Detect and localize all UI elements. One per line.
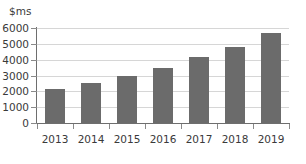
bar bbox=[153, 68, 173, 123]
bar bbox=[225, 47, 245, 123]
gridline bbox=[37, 28, 289, 29]
y-axis-tick-label: 4000 bbox=[2, 54, 29, 66]
x-axis-tick-mark bbox=[145, 124, 146, 129]
y-axis-tick-mark bbox=[31, 28, 37, 29]
x-axis-tick-label: 2014 bbox=[78, 133, 105, 145]
y-axis-tick-label: 6000 bbox=[2, 22, 29, 34]
x-axis-tick-label: 2018 bbox=[222, 133, 249, 145]
y-axis-tick-mark bbox=[31, 76, 37, 77]
y-axis-tick-label: 1000 bbox=[2, 101, 29, 113]
x-axis-tick-mark bbox=[217, 124, 218, 129]
x-axis-tick-mark bbox=[181, 124, 182, 129]
x-axis-line bbox=[31, 123, 290, 124]
y-axis-tick-mark bbox=[31, 44, 37, 45]
bar bbox=[261, 33, 281, 123]
x-axis-tick-mark bbox=[37, 124, 38, 129]
bar bbox=[117, 76, 137, 124]
plot-area bbox=[37, 28, 289, 123]
bar bbox=[45, 89, 65, 123]
x-axis-tick-label: 2015 bbox=[114, 133, 141, 145]
y-axis-tick-mark bbox=[31, 91, 37, 92]
x-axis-tick-mark bbox=[253, 124, 254, 129]
bar bbox=[81, 83, 101, 123]
bar bbox=[189, 57, 209, 123]
x-axis-tick-mark bbox=[73, 124, 74, 129]
x-axis-tick-mark bbox=[109, 124, 110, 129]
y-axis-tick-label: 3000 bbox=[2, 70, 29, 82]
x-axis-tick-label: 2016 bbox=[150, 133, 177, 145]
y-axis-unit-label: $ms bbox=[9, 5, 31, 17]
y-axis-tick-label: 5000 bbox=[2, 38, 29, 50]
y-axis-tick-label: 2000 bbox=[2, 85, 29, 97]
y-axis-tick-mark bbox=[31, 60, 37, 61]
gridline bbox=[37, 44, 289, 45]
x-axis-tick-mark bbox=[289, 124, 290, 129]
y-axis-tick-label: 0 bbox=[22, 117, 29, 129]
gridline bbox=[37, 60, 289, 61]
y-axis-tick-mark bbox=[31, 107, 37, 108]
bar-chart: $ms 010002000300040005000600020132014201… bbox=[0, 0, 306, 164]
x-axis-tick-label: 2013 bbox=[42, 133, 69, 145]
x-axis-tick-label: 2017 bbox=[186, 133, 213, 145]
x-axis-tick-label: 2019 bbox=[258, 133, 285, 145]
